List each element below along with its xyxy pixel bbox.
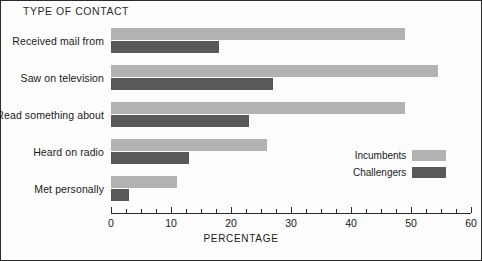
x-axis-line — [111, 213, 471, 214]
x-axis-minor-tick — [381, 209, 382, 213]
legend-swatch-challenger — [412, 167, 446, 178]
x-axis-tick-label: 40 — [345, 217, 357, 229]
x-axis-minor-tick — [141, 209, 142, 213]
x-axis-tick-label: 60 — [465, 217, 477, 229]
x-axis-major-tick — [411, 207, 412, 213]
category-label: Heard on radio — [33, 146, 104, 158]
x-axis-tick-label: 30 — [285, 217, 297, 229]
bar-challengers — [111, 152, 189, 164]
x-axis-minor-tick — [156, 209, 157, 213]
bar-incumbents — [111, 139, 267, 151]
x-axis-minor-tick — [396, 209, 397, 213]
x-axis-minor-tick — [186, 209, 187, 213]
x-axis-minor-tick — [426, 209, 427, 213]
legend-swatch-incumbent — [412, 150, 446, 161]
legend-item: Incumbents — [353, 149, 446, 162]
bar-incumbents — [111, 176, 177, 188]
x-axis-minor-tick — [216, 209, 217, 213]
x-axis-tick-label: 50 — [405, 217, 417, 229]
x-axis-minor-tick — [201, 209, 202, 213]
bar-challengers — [111, 115, 249, 127]
bar-challengers — [111, 189, 129, 201]
bar-incumbents — [111, 28, 405, 40]
x-axis-minor-tick — [261, 209, 262, 213]
x-axis-minor-tick — [306, 209, 307, 213]
x-axis-minor-tick — [321, 209, 322, 213]
legend: IncumbentsChallengers — [353, 149, 446, 183]
x-axis-minor-tick — [456, 209, 457, 213]
x-axis-title: PERCENTAGE — [1, 233, 481, 244]
x-axis-major-tick — [471, 207, 472, 213]
x-axis-major-tick — [111, 207, 112, 213]
x-axis-major-tick — [171, 207, 172, 213]
x-axis-minor-tick — [276, 209, 277, 213]
legend-label: Challengers — [353, 167, 406, 178]
x-axis-major-tick — [291, 207, 292, 213]
x-axis-minor-tick — [126, 209, 127, 213]
category-label: Read something about — [0, 109, 104, 121]
x-axis-minor-tick — [246, 209, 247, 213]
x-axis-tick-label: 10 — [165, 217, 177, 229]
legend-label: Incumbents — [355, 150, 407, 161]
bar-incumbents — [111, 102, 405, 114]
category-label: Met personally — [34, 183, 104, 195]
category-label: Received mail from — [12, 35, 104, 47]
bar-challengers — [111, 41, 219, 53]
bar-incumbents — [111, 65, 438, 77]
x-axis-minor-tick — [441, 209, 442, 213]
x-axis-major-tick — [231, 207, 232, 213]
bar-challengers — [111, 78, 273, 90]
legend-item: Challengers — [353, 166, 446, 179]
x-axis-minor-tick — [336, 209, 337, 213]
chart-figure: TYPE OF CONTACT Received mail fromSaw on… — [0, 0, 482, 261]
x-axis-tick-label: 0 — [108, 217, 114, 229]
category-label: Saw on television — [21, 72, 104, 84]
x-axis-tick-label: 20 — [225, 217, 237, 229]
x-axis-minor-tick — [366, 209, 367, 213]
x-axis-major-tick — [351, 207, 352, 213]
